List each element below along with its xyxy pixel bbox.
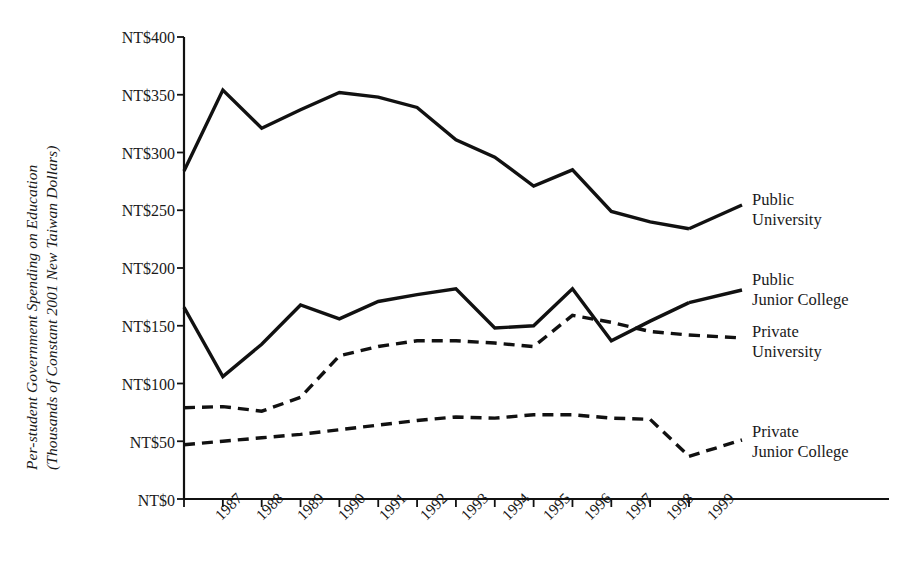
- series-label-line-2: Junior College: [752, 442, 849, 462]
- series-label-private-university: Private University: [752, 322, 822, 362]
- series-label-line-1: Public: [752, 190, 822, 210]
- series-leader-private-junior-college: [689, 440, 742, 456]
- series-leader-public-university: [689, 205, 742, 229]
- series-label-line-1: Public: [752, 270, 849, 290]
- series-leader-public-junior-college: [689, 290, 742, 303]
- series-label-line-2: University: [752, 210, 822, 230]
- chart-figure: Per-student Government Spending on Educa…: [0, 0, 899, 581]
- series-line-public-junior-college: [184, 289, 689, 377]
- data-series-group: [184, 90, 742, 456]
- series-label-public-junior-college: Public Junior College: [752, 270, 849, 310]
- series-label-line-2: University: [752, 342, 822, 362]
- series-line-public-university: [184, 90, 689, 229]
- series-label-line-1: Private: [752, 322, 822, 342]
- x-axis-ticks: [184, 499, 689, 507]
- series-label-public-university: Public University: [752, 190, 822, 230]
- series-line-private-junior-college: [184, 415, 689, 457]
- series-label-private-junior-college: Private Junior College: [752, 422, 849, 462]
- series-line-private-university: [184, 315, 689, 411]
- series-label-line-1: Private: [752, 422, 849, 442]
- series-label-line-2: Junior College: [752, 290, 849, 310]
- series-leader-private-university: [689, 335, 742, 338]
